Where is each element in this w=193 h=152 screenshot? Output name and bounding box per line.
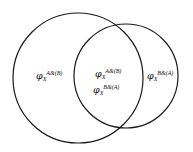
phi-superscript: A&(B) — [46, 70, 62, 76]
phi-symbol: φ — [93, 84, 100, 95]
phi-subscript: X — [154, 76, 158, 82]
label-a-only: φXA&(B) — [36, 66, 62, 82]
phi-superscript: B&(A) — [103, 84, 119, 90]
label-intersection-ba: φXB&(A) — [93, 80, 119, 96]
phi-subscript: X — [43, 76, 47, 82]
phi-symbol: φ — [95, 68, 102, 79]
left-circle-set-a — [13, 13, 143, 143]
label-intersection-ab: φXA&(B) — [95, 64, 121, 80]
phi-symbol: φ — [147, 70, 154, 81]
label-b-only: φXB&(A) — [147, 66, 173, 82]
phi-symbol: φ — [36, 70, 43, 81]
venn-diagram-figure: φXA&(B) φXA&(B) φXB&(A) φXB&(A) — [0, 0, 193, 152]
phi-superscript: B&(A) — [157, 70, 173, 76]
phi-subscript: X — [100, 90, 104, 96]
phi-superscript: A&(B) — [105, 68, 121, 74]
